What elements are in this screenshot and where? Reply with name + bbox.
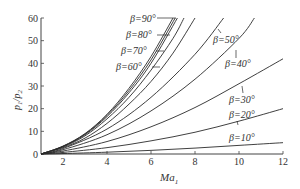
curve-label: β=90° (129, 13, 156, 24)
curve-label: β=70° (120, 45, 147, 56)
curve-label: β=30° (228, 94, 255, 105)
label-leader (242, 86, 243, 93)
pressure-ratio-chart: 246810120102030405060 β=90°β=80°β=70°β=6… (0, 0, 300, 189)
curve-label: β=20° (228, 109, 255, 120)
y-tick-label: 10 (28, 126, 38, 137)
label-leader (218, 29, 221, 33)
y-tick-label: 0 (33, 149, 38, 160)
curve-label: β=10° (228, 132, 255, 143)
x-tick-label: 2 (61, 156, 66, 167)
x-tick-label: 8 (193, 156, 198, 167)
curve-label: β=40° (224, 58, 251, 69)
curve-label: β=60° (115, 61, 142, 72)
y-axis-label: p1/p2 (11, 90, 24, 111)
x-axis-label: Ma1 (159, 171, 178, 186)
y-tick-label: 60 (28, 13, 38, 24)
curve-label: β=50° (212, 34, 239, 45)
y-tick-label: 50 (28, 35, 38, 46)
x-tick-label: 10 (234, 156, 244, 167)
curve-90 (41, 18, 173, 154)
x-tick-label: 6 (149, 156, 154, 167)
curve-unlabeled (41, 18, 195, 154)
y-tick-label: 40 (28, 58, 38, 69)
y-tick-label: 30 (28, 81, 38, 92)
curve-60 (41, 18, 184, 154)
y-tick-label: 20 (28, 103, 38, 114)
curve-80 (41, 18, 175, 154)
x-tick-label: 12 (278, 156, 288, 167)
curve-labels: β=90°β=80°β=70°β=60°β=50°β=40°β=30°β=20°… (115, 13, 255, 143)
x-tick-label: 4 (105, 156, 110, 167)
curve-label: β=80° (125, 29, 152, 40)
